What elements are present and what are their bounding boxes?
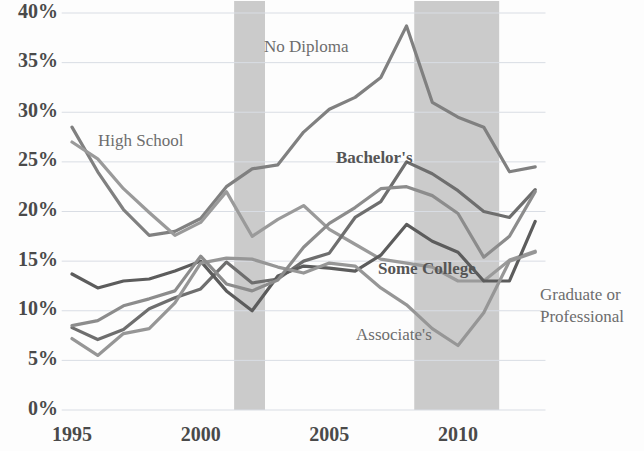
series-label-graduate-or-professional-line2: Professional [540,307,624,326]
x-tick-label-2005: 2005 [309,423,349,445]
y-tick-label-20: 20% [18,198,58,220]
y-tick-label-40: 40% [18,0,58,22]
y-tick-label-30: 30% [18,99,58,121]
y-tick-label-25: 25% [18,148,58,170]
line-chart-container: 0%5%10%15%20%25%30%35%40% 19952000200520… [0,0,644,451]
x-axis-tick-labels: 1995200020052010 [52,423,478,445]
y-tick-label-35: 35% [18,49,58,71]
y-axis-tick-labels: 0%5%10%15%20%25%30%35%40% [18,0,58,419]
series-label-bachelor-s: Bachelor's [336,148,413,167]
x-tick-label-2000: 2000 [181,423,221,445]
series-label-graduate-or-professional: Graduate orProfessional [540,285,624,326]
x-tick-label-1995: 1995 [52,423,92,445]
series-label-graduate-or-professional-line1: Graduate or [540,285,621,304]
series-label-high-school: High School [98,131,184,150]
x-tick-label-2010: 2010 [438,423,478,445]
series-label-associate-s: Associate's [356,325,432,344]
y-tick-label-15: 15% [18,248,58,270]
chart-plot-area: 0%5%10%15%20%25%30%35%40% 19952000200520… [0,0,644,451]
y-tick-label-10: 10% [18,297,58,319]
series-label-some-college: Some College [378,259,476,278]
series-label-no-diploma: No Diploma [264,37,349,56]
y-tick-label-5: 5% [28,347,58,369]
y-tick-label-0: 0% [28,397,58,419]
